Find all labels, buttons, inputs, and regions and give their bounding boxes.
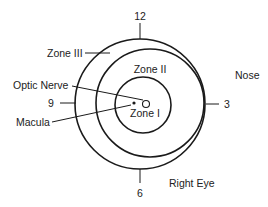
macula-marker (132, 101, 135, 104)
macula-label: Macula (16, 116, 50, 128)
clock-6-label: 6 (137, 187, 143, 199)
clock-9-label: 9 (48, 97, 54, 109)
right-eye-label: Right Eye (169, 177, 215, 189)
clock-12-label: 12 (134, 10, 146, 22)
clock-3-label: 3 (224, 98, 230, 110)
optic-nerve-leader (72, 86, 143, 100)
zone-iii-circle (75, 39, 205, 169)
optic-nerve-label: Optic Nerve (13, 79, 69, 91)
nose-label: Nose (235, 69, 260, 81)
retina-zone-diagram: 12 3 6 9 Zone III Zone II Zone I Optic N… (0, 0, 268, 207)
zone-iii-label: Zone III (47, 47, 83, 59)
zone-ii-label: Zone II (134, 63, 167, 75)
zone-i-label: Zone I (130, 107, 160, 119)
